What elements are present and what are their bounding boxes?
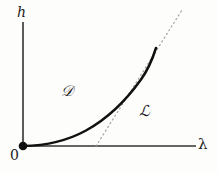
x-axis-label: λ — [198, 137, 208, 152]
figure-canvas: h λ 0 𝒟 ℒ — [0, 0, 218, 172]
region-label-lower: ℒ — [139, 104, 150, 119]
figure-svg — [0, 0, 218, 172]
y-axis-label: h — [17, 5, 26, 19]
origin-dot — [19, 142, 28, 151]
boundary-curve — [23, 48, 156, 146]
region-label-domain: 𝒟 — [61, 84, 73, 99]
origin-label: 0 — [10, 148, 19, 162]
asymptote-dotted-line — [96, 10, 182, 146]
